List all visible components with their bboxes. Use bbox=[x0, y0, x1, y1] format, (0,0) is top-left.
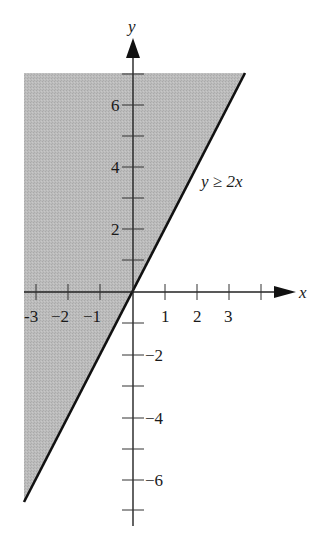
y-tick-label: −6 bbox=[145, 471, 163, 490]
x-tick-label: −1 bbox=[83, 307, 101, 326]
x-axis-arrow-icon bbox=[274, 286, 296, 298]
x-tick-label: −2 bbox=[51, 307, 69, 326]
y-tick-label: 4 bbox=[111, 158, 120, 177]
y-tick-label: −4 bbox=[145, 409, 164, 428]
y-tick-label: 2 bbox=[111, 220, 120, 239]
y-axis-arrow-icon bbox=[126, 38, 140, 58]
x-tick-label: 2 bbox=[193, 307, 202, 326]
inequality-label: y ≥ 2x bbox=[199, 172, 243, 191]
y-axis-label: y bbox=[126, 17, 136, 36]
x-axis-label: x bbox=[298, 283, 307, 302]
x-tick-label: 3 bbox=[224, 307, 233, 326]
y-tick-label: −2 bbox=[145, 346, 163, 365]
x-tick-label: -3 bbox=[24, 307, 38, 326]
y-tick-label: 6 bbox=[111, 96, 120, 115]
x-tick-label: 1 bbox=[161, 307, 170, 326]
inequality-graph: y x -3 −2 −1 1 2 3 6 4 2 −2 −4 −6 y ≥ 2x bbox=[0, 0, 317, 534]
